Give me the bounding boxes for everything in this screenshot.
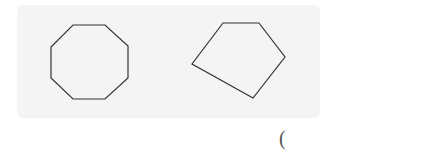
- answer-bracket: (: [279, 126, 286, 150]
- octagon-shape: [51, 25, 128, 99]
- polygons-figure: [0, 0, 447, 158]
- pentagon-shape: [192, 23, 285, 98]
